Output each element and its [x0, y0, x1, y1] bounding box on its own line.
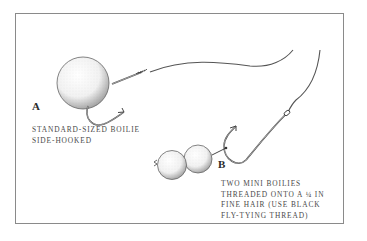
- hair-stop-icon: [154, 160, 157, 166]
- line-a: [150, 50, 293, 72]
- panel-a-caption: STANDARD-SIZED BOILIE SIDE-HOOKED: [32, 125, 182, 146]
- hook-a-bend: [87, 106, 124, 125]
- line-b: [288, 50, 320, 112]
- panel-a-drawing: [57, 50, 293, 125]
- knot-a-icon: [136, 69, 147, 74]
- hook-a-barb: [118, 108, 124, 113]
- panel-b-caption: TWO MINI BOILIES THREADED ONTO A ¼ IN FI…: [221, 179, 356, 221]
- hook-b-bend: [224, 126, 246, 163]
- hook-b-eye-icon: [283, 109, 290, 116]
- panel-b-label: B: [218, 158, 226, 170]
- hook-b-shank: [246, 112, 288, 160]
- panel-b-drawing: [154, 50, 320, 180]
- panel-a-label: A: [32, 100, 40, 112]
